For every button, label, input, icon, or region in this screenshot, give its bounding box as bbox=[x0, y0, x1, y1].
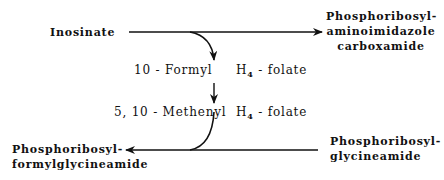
node-aicar-line1: Phosphoribosyl- bbox=[326, 9, 436, 24]
methenyl-suffix: - folate bbox=[254, 105, 307, 119]
node-gar-line2: glycineamide bbox=[330, 149, 441, 164]
node-aicar: Phosphoribosyl- aminoimidazole carboxami… bbox=[326, 9, 436, 54]
methenyl-h: H bbox=[236, 105, 247, 119]
cofactor-formyl-prefix: 10 - Formyl bbox=[134, 63, 212, 78]
node-aicar-line3: carboxamide bbox=[326, 39, 436, 54]
node-fgar-line1: Phosphoribosyl- bbox=[12, 142, 148, 157]
formyl-suffix: - folate bbox=[254, 63, 307, 77]
node-fgar: Phosphoribosyl- formylglycineamide bbox=[12, 142, 148, 172]
cofactor-formyl-folate: H4 - folate bbox=[236, 63, 307, 82]
cofactor-methenyl-prefix: 5, 10 - Methenyl bbox=[114, 105, 226, 120]
node-fgar-line2: formylglycineamide bbox=[12, 157, 148, 172]
node-gar: Phosphoribosyl- glycineamide bbox=[330, 134, 441, 164]
node-aicar-line2: aminoimidazole bbox=[326, 24, 436, 39]
node-inosinate: Inosinate bbox=[50, 25, 115, 40]
cofactor-methenyl-folate: H4 - folate bbox=[236, 105, 307, 124]
node-gar-line1: Phosphoribosyl- bbox=[330, 134, 441, 149]
formyl-release-curve bbox=[190, 32, 214, 60]
formyl-h: H bbox=[236, 63, 247, 77]
